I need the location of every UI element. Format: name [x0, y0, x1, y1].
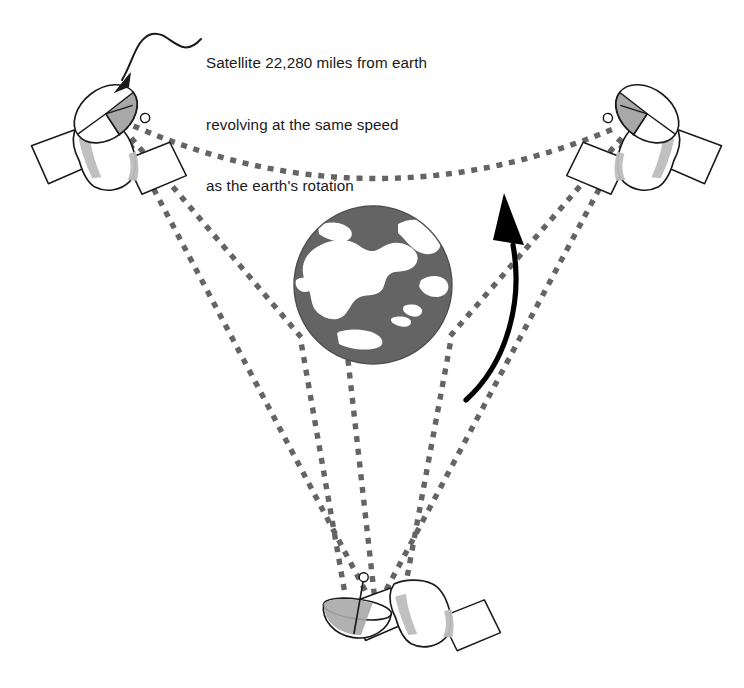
callout-line-2: revolving at the same speed	[206, 115, 486, 136]
satellite-top-right	[565, 67, 728, 205]
callout-leader-arrow	[113, 34, 201, 94]
satellite-diagram: Satellite 22,280 miles from earth revolv…	[0, 0, 744, 688]
satellite-bottom	[316, 549, 512, 682]
path-bottom-tangent-earth	[348, 360, 374, 592]
callout-line-1: Satellite 22,280 miles from earth	[206, 53, 486, 74]
satellite-callout-text: Satellite 22,280 miles from earth revolv…	[206, 12, 486, 238]
callout-line-3: as the earth's rotation	[206, 176, 486, 197]
